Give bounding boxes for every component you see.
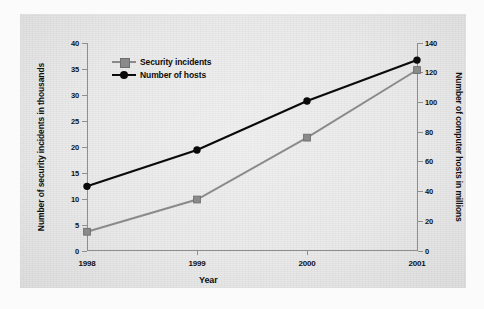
left-axis-tick-label: 15 (57, 169, 79, 178)
legend-swatch-circle-icon (112, 69, 136, 80)
x-axis-tick-label: 1999 (177, 259, 217, 268)
data-point-marker (194, 196, 201, 203)
chart-legend: Security incidents Number of hosts (112, 55, 211, 81)
figure-caption (22, 292, 462, 306)
left-axis-tick-label: 25 (57, 117, 79, 126)
left-axis-tick-label: 0 (57, 247, 79, 256)
right-axis-tick-label: 80 (425, 128, 449, 137)
left-axis-title: Number of security incidents in thousand… (36, 63, 46, 231)
right-axis-tick-label: 20 (425, 217, 449, 226)
x-axis-title: Year (199, 275, 218, 285)
right-axis-tick (418, 251, 423, 252)
left-axis-tick-label: 35 (57, 65, 79, 74)
right-axis-tick (418, 102, 423, 103)
left-axis-tick-label: 5 (57, 221, 79, 230)
data-point-marker (303, 97, 310, 104)
left-axis-tick-label: 30 (57, 91, 79, 100)
legend-swatch-square-icon (112, 56, 136, 67)
right-axis-tick (418, 191, 423, 192)
right-axis-tick (418, 43, 423, 44)
data-point-marker (414, 67, 421, 74)
left-axis-tick-label: 20 (57, 143, 79, 152)
data-point-marker (84, 228, 91, 235)
legend-label-number-of-hosts: Number of hosts (140, 70, 206, 80)
data-point-marker (193, 146, 200, 153)
legend-item-security-incidents: Security incidents (112, 55, 211, 68)
right-axis-tick-label: 100 (425, 98, 449, 107)
plot-area: 0510152025303540 020406080100120140 1998… (87, 43, 418, 251)
figure-root: 0510152025303540 020406080100120140 1998… (0, 0, 484, 309)
data-point-marker (304, 134, 311, 141)
right-axis-tick (418, 161, 423, 162)
right-axis-tick-label: 120 (425, 68, 449, 77)
right-axis-tick-label: 40 (425, 187, 449, 196)
right-axis-title: Number of computer hosts in millions (454, 72, 464, 221)
x-axis-tick (307, 251, 308, 255)
right-axis-tick (418, 132, 423, 133)
left-axis-tick-label: 40 (57, 39, 79, 48)
data-point-marker (83, 183, 90, 190)
legend-item-number-of-hosts: Number of hosts (112, 68, 211, 81)
x-axis-tick-label: 2000 (287, 259, 327, 268)
left-axis-tick-label: 10 (57, 195, 79, 204)
data-point-marker (413, 56, 420, 63)
right-axis-tick-label: 140 (425, 39, 449, 48)
right-axis-tick-label: 60 (425, 157, 449, 166)
series-line-0 (87, 70, 417, 232)
legend-label-security-incidents: Security incidents (140, 57, 211, 67)
x-axis-tick-label: 1998 (67, 259, 107, 268)
x-axis-tick (197, 251, 198, 255)
x-axis-tick-label: 2001 (397, 259, 437, 268)
right-axis-tick (418, 221, 423, 222)
right-axis-tick-label: 0 (425, 247, 449, 256)
